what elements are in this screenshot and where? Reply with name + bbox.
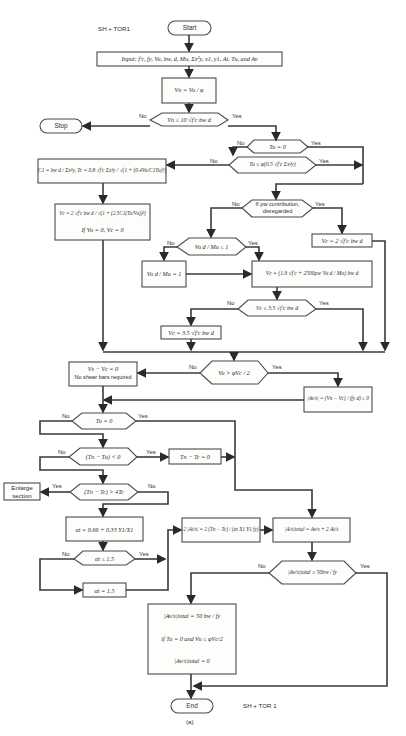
alpha-cap-label: αt = 1.5 <box>83 587 126 595</box>
input-label: Input: f'c, fy, Vu, bw, d, Mu, Σx²y, x1,… <box>97 55 282 63</box>
total-label: |A/s|total = Av/s + 2 At/s <box>273 526 350 534</box>
branch-no-label: No <box>58 449 66 455</box>
branch-no-label: No <box>210 158 218 164</box>
stop-label: Stop <box>40 122 82 129</box>
branch-yes-label: Yes <box>248 240 258 246</box>
branch-yes-label: Yes <box>139 551 149 557</box>
vn-label: Vn = Vu / φ <box>162 86 216 94</box>
branch-no-label: No <box>167 240 175 246</box>
decision-vc-cap-label: Vc ≤ 3.5 √f'c bw d <box>238 305 316 313</box>
branch-yes-label: Yes <box>232 113 242 119</box>
branch-no-label: No <box>148 483 156 489</box>
end-label: End <box>171 702 213 709</box>
decision-rho-w-label: If ρw contribution, disregarded <box>246 201 309 214</box>
branch-no-label: No <box>227 300 235 306</box>
decision-vn-limit-label: Vn ≤ 10 √f'c bw d <box>150 116 228 124</box>
branch-yes-label: Yes <box>360 563 370 569</box>
branch-no-label: No <box>258 563 266 569</box>
branch-yes-label: Yes <box>319 300 329 306</box>
zero-total-label: |Av/s|total = 0 <box>148 657 236 665</box>
decision-tu-zero-2-label: Tu = 0 <box>72 417 136 425</box>
branch-no-label: No <box>139 113 147 119</box>
decision-tn-tu-label: (Tn − Tu) < 0 <box>69 453 137 461</box>
av-s-label: |Av/s| = (Vn − Vc) / (fy d) ≥ 0 <box>304 395 372 403</box>
branch-no-label: No <box>62 413 70 419</box>
branch-no-label: No <box>237 140 245 146</box>
decision-ratio-label: Vu d / Mu ≤ 1 <box>177 243 246 251</box>
decision-vu-phi-label: Vu > φVc / 2 <box>200 369 268 377</box>
branch-no-label: No <box>62 551 70 557</box>
vc-cap-label: Vc = 3.5 √f'c bw d <box>161 329 221 337</box>
program-label-bottom: SH + TOR 1 <box>243 702 277 709</box>
c1-tc-label: C1 = bw d / Σx²y, Tc = 0.8 √f'c Σx²y / √… <box>38 167 166 175</box>
branch-no-label: No <box>232 201 240 207</box>
ratio-one-label: Vu d / Mu = 1 <box>142 270 186 278</box>
min-total-condition: if Tu = 0 and Vu ≤ φVc/2 <box>148 635 236 643</box>
decision-tu-zero-label: Tu = 0 <box>247 143 308 151</box>
no-shear-label: Vs − Vc = 0 <box>69 365 137 373</box>
flowchart: Start Stop End Enlarge section SH + TOR1… <box>0 0 406 736</box>
program-label-top: SH + TOR1 <box>98 25 130 32</box>
decision-tu-limit-label: Tu ≤ φ(0.5 √f'c Σx²y) <box>229 161 316 169</box>
enlarge-section-label: Enlarge section <box>4 484 40 499</box>
branch-yes-label: Yes <box>138 413 148 419</box>
branch-yes-label: Yes <box>272 364 282 370</box>
branch-yes-label: Yes <box>146 449 156 455</box>
at-s-label: 2 |At/s| = 2 (Tn − Tc) / (αt X1 Y1 fy) <box>182 526 260 534</box>
flowchart-connectors <box>0 0 406 736</box>
decision-tn-tc-4tc-label: (Tn − Tc) > 4Tc <box>70 488 138 496</box>
vc-detailed-label: Vc = (1.9 √f'c + 2500ρw Vu d / Mu) bw d <box>252 270 372 278</box>
vc-simple-label: Vc = 2 √f'c bw d <box>312 237 372 245</box>
decision-alpha-t-label: αt ≤ 1.5 <box>74 555 135 563</box>
branch-yes-label: Yes <box>311 140 321 146</box>
min-total-label: |Av/s|total = 50 bw / fy <box>148 612 236 620</box>
tn-tc-zero-label: Tn − Tc = 0 <box>169 453 221 461</box>
decision-min-total-label: |Av/s|total ≥ 50bw / fy <box>269 569 356 577</box>
branch-yes-label: Yes <box>315 201 325 207</box>
start-label: Start <box>168 24 211 31</box>
figure-caption: (a) <box>186 718 194 725</box>
branch-no-label: No <box>189 364 197 370</box>
vc-torsion-label: Vc = 2 √f'c bw d / √(1 + (2.5C1(Tu/Vu))²… <box>55 210 150 218</box>
branch-yes-label: Yes <box>319 158 329 164</box>
branch-yes-label: Yes <box>52 483 62 489</box>
no-shear-note: No shear bars required <box>69 374 137 382</box>
vc-torsion-note: If Vu = 0, Vc = 0 <box>55 226 150 234</box>
alpha-t-label: αt = 0.66 + 0.33 Y1/X1 <box>66 526 143 534</box>
